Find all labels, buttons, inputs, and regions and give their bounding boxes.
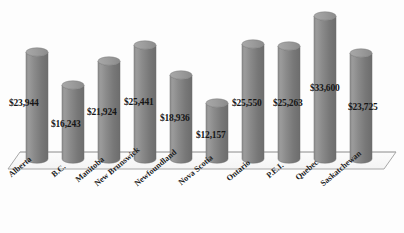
bar-value-label: $21,924 bbox=[87, 108, 116, 118]
bar-value-label: $16,243 bbox=[51, 120, 80, 130]
bar-value-label: $23,725 bbox=[348, 103, 377, 113]
bar-value-label: $33,600 bbox=[310, 84, 339, 94]
chart-plot-area bbox=[0, 0, 404, 233]
bar-value-label: $25,550 bbox=[232, 99, 261, 109]
bar-value-label: $25,441 bbox=[124, 98, 153, 108]
bar-value-label: $18,936 bbox=[160, 114, 189, 124]
bar-value-label: $12,157 bbox=[196, 131, 225, 141]
bar-value-label: $25,263 bbox=[273, 99, 302, 109]
bar-value-label: $23,944 bbox=[9, 99, 38, 109]
bar-chart: $23,944$16,243$21,924$25,441$18,936$12,1… bbox=[0, 0, 404, 233]
